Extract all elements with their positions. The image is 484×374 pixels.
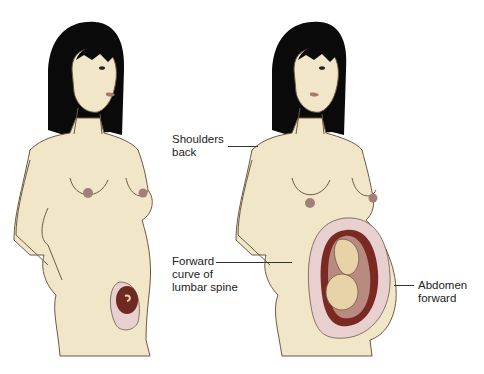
- leader-line-lumbar: [216, 262, 292, 263]
- leader-line-shoulders: [228, 146, 258, 147]
- pregnancy-posture-illustration: [0, 0, 484, 374]
- label-shoulders-back: Shoulders back: [172, 133, 224, 159]
- label-abdomen-forward: Abdomen forward: [418, 279, 467, 305]
- label-forward-curve-lumbar-spine: Forward curve of lumbar spine: [172, 255, 238, 294]
- late-pregnancy-figure: [236, 22, 396, 356]
- leader-line-abdomen: [394, 285, 414, 286]
- early-pregnancy-figure: [14, 22, 152, 356]
